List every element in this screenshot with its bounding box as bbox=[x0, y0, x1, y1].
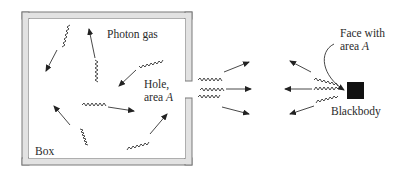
blackbody-label: Blackbody bbox=[331, 105, 381, 118]
photon-gas-diagram: Photon gas Hole, area A Box Face with ar… bbox=[0, 0, 409, 177]
hole-label-line2: area A bbox=[144, 91, 174, 103]
photon-gas-label: Photon gas bbox=[107, 28, 158, 41]
hole-area-prefix: area bbox=[144, 91, 166, 103]
hole-area-variable: A bbox=[165, 91, 174, 103]
hole-label-line1: Hole, bbox=[144, 78, 169, 91]
face-area-variable: A bbox=[361, 40, 370, 52]
blackbody-square bbox=[347, 82, 364, 99]
box-label: Box bbox=[35, 145, 54, 157]
photons-exiting-hole bbox=[198, 62, 251, 114]
face-area-prefix: area bbox=[340, 40, 362, 52]
face-label-line2: area A bbox=[340, 40, 370, 52]
face-label-line1: Face with bbox=[340, 27, 385, 39]
